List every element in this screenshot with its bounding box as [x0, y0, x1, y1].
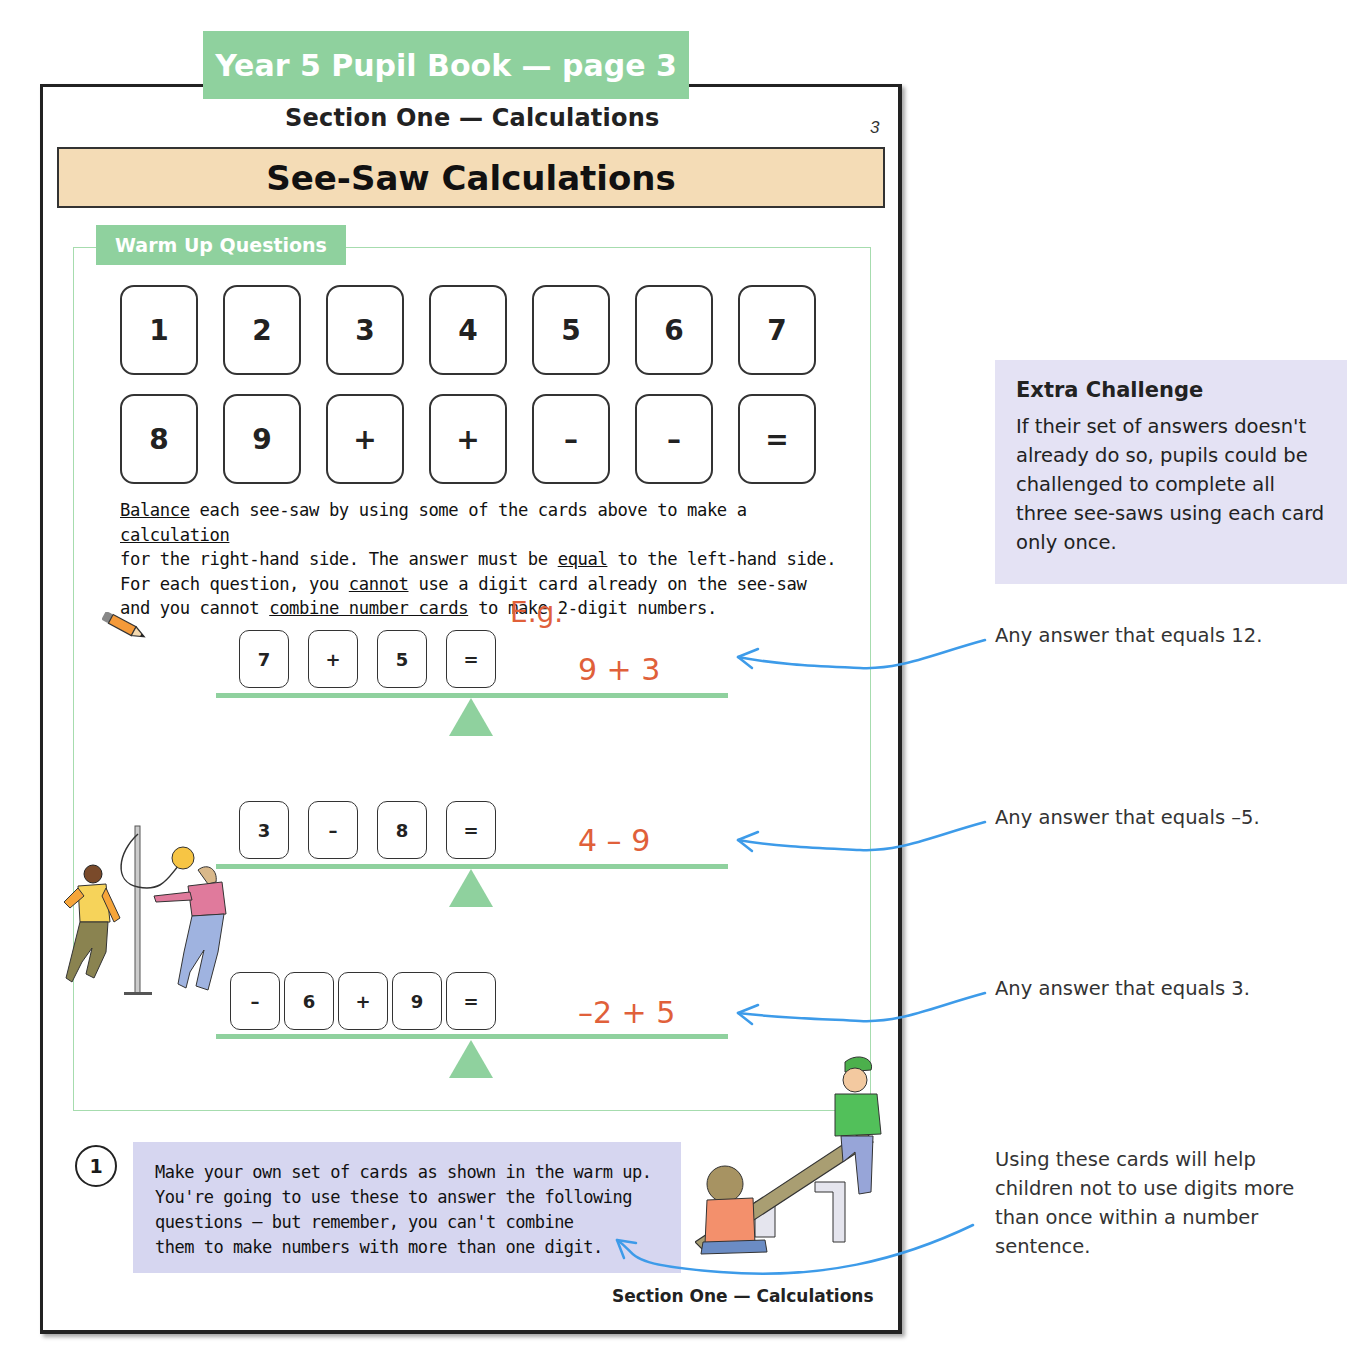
seesaw-1-fulcrum — [449, 698, 493, 736]
teacher-note-4: Using these cards will help children not… — [995, 1145, 1295, 1261]
digit-card: 4 — [429, 285, 507, 375]
digit-card: 7 — [738, 285, 816, 375]
seesaw-3-cards: – 6 + 9 = — [230, 972, 496, 1030]
text: to the left-hand side. — [607, 549, 836, 569]
operator-card: + — [326, 394, 404, 484]
text: to make 2-digit numbers. — [468, 598, 717, 618]
teacher-note-3: Any answer that equals 3. — [995, 974, 1250, 1003]
seesaw-2-cards: 3 – 8 = — [239, 801, 496, 859]
text: For each question, you — [120, 574, 349, 594]
question-number: 1 — [75, 1145, 117, 1187]
seesaw-card: + — [338, 972, 388, 1030]
digit-card: 5 — [532, 285, 610, 375]
underlined-word: combine number cards — [269, 598, 468, 618]
seesaw-card: – — [308, 801, 358, 859]
operator-card: – — [532, 394, 610, 484]
seesaw-card: 9 — [392, 972, 442, 1030]
question-line: You're going to use these to answer the … — [155, 1185, 661, 1210]
digit-card: 2 — [223, 285, 301, 375]
digit-card: 9 — [223, 394, 301, 484]
question-line: Make your own set of cards as shown in t… — [155, 1160, 661, 1185]
text: each see-saw by using some of the cards … — [190, 500, 747, 520]
seesaw-card: 8 — [377, 801, 427, 859]
example-label: E.g. — [510, 596, 563, 629]
page-title: See-Saw Calculations — [57, 147, 885, 208]
seesaw-3-answer: –2 + 5 — [578, 995, 675, 1030]
extra-challenge-text: If their set of answers doesn't already … — [1016, 412, 1331, 557]
underlined-word: cannot — [349, 574, 409, 594]
seesaw-3-beam — [216, 1034, 728, 1039]
question-1-box: Make your own set of cards as shown in t… — [133, 1142, 681, 1273]
seesaw-1-answer: 9 + 3 — [578, 652, 660, 687]
digit-card: 3 — [326, 285, 404, 375]
seesaw-card: = — [446, 801, 496, 859]
card-row-2: 8 9 + + – – = — [120, 394, 816, 484]
seesaw-1-cards: 7 + 5 = — [239, 630, 496, 688]
book-page-tab: Year 5 Pupil Book — page 3 — [203, 31, 689, 99]
digit-card: 8 — [120, 394, 198, 484]
underlined-word: equal — [558, 549, 608, 569]
seesaw-card: 6 — [284, 972, 334, 1030]
seesaw-3-fulcrum — [449, 1040, 493, 1078]
equals-card: = — [738, 394, 816, 484]
section-heading: Section One — Calculations — [285, 104, 659, 132]
page-footer: Section One — Calculations — [612, 1286, 874, 1306]
teacher-note-2: Any answer that equals –5. — [995, 803, 1260, 832]
text: use a digit card already on the see-saw — [409, 574, 807, 594]
digit-card: 1 — [120, 285, 198, 375]
seesaw-children-illustration — [695, 1052, 895, 1257]
seesaw-card: 3 — [239, 801, 289, 859]
underlined-word: calculation — [120, 525, 229, 545]
digit-card: 6 — [635, 285, 713, 375]
operator-card: + — [429, 394, 507, 484]
extra-challenge-title: Extra Challenge — [1016, 378, 1331, 402]
seesaw-card: 5 — [377, 630, 427, 688]
extra-challenge-box: Extra Challenge If their set of answers … — [995, 360, 1347, 584]
seesaw-card: = — [446, 972, 496, 1030]
page-number: 3 — [870, 118, 879, 138]
question-line: them to make numbers with more than one … — [155, 1235, 661, 1260]
warm-up-tab: Warm Up Questions — [96, 225, 346, 265]
seesaw-2-fulcrum — [449, 869, 493, 907]
instructions-text: Balance each see-saw by using some of th… — [120, 498, 865, 621]
text: for the right-hand side. The answer must… — [120, 549, 558, 569]
seesaw-card: = — [446, 630, 496, 688]
seesaw-card: 7 — [239, 630, 289, 688]
teacher-note-1: Any answer that equals 12. — [995, 621, 1262, 650]
underlined-word: Balance — [120, 500, 190, 520]
tetherball-children-illustration — [58, 822, 238, 1002]
seesaw-2-answer: 4 – 9 — [578, 823, 650, 858]
seesaw-card: + — [308, 630, 358, 688]
pencil-icon — [97, 612, 151, 640]
card-row-1: 1 2 3 4 5 6 7 — [120, 285, 816, 375]
question-line: questions — but remember, you can't comb… — [155, 1210, 661, 1235]
operator-card: – — [635, 394, 713, 484]
